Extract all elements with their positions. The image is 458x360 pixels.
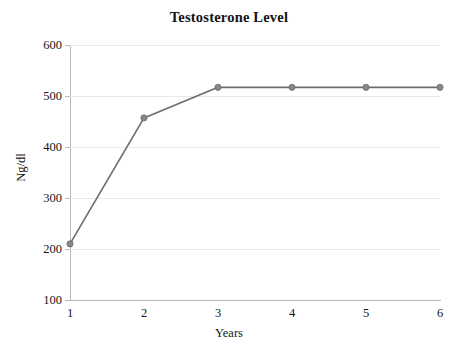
data-point-marker	[141, 115, 147, 121]
x-axis-tick-label: 2	[129, 306, 159, 321]
x-axis-tick-label: 3	[203, 306, 233, 321]
data-point-marker	[289, 84, 295, 90]
y-axis-title: Ng/dl	[14, 138, 29, 198]
series-markers	[67, 84, 443, 247]
x-axis-tick-label: 1	[55, 306, 85, 321]
x-axis-tick-label: 4	[277, 306, 307, 321]
x-axis-title: Years	[0, 326, 458, 341]
data-point-marker	[67, 241, 73, 247]
x-axis-tick-label: 5	[351, 306, 381, 321]
data-point-marker	[363, 84, 369, 90]
x-axis-tick-labels: 123456	[0, 306, 458, 326]
data-point-marker	[215, 84, 221, 90]
chart-container: Testosterone Level 100200300400500600 12…	[0, 0, 458, 360]
data-point-marker	[437, 84, 443, 90]
series-line-testosterone	[70, 87, 440, 244]
x-axis-tick-label: 6	[425, 306, 455, 321]
